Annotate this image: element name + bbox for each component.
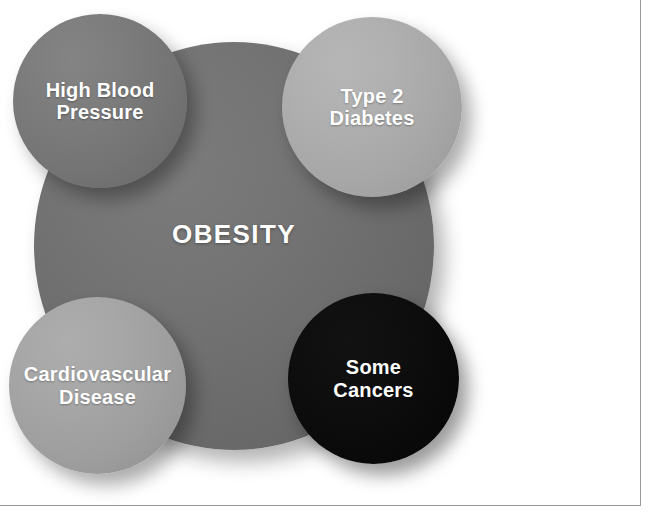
bubble-high-blood-pressure: High Blood Pressure (13, 14, 187, 188)
obesity-diagram: OBESITY High Blood Pressure Type 2 Diabe… (0, 0, 657, 512)
bubble-cardiovascular-disease: Cardiovascular Disease (9, 297, 186, 474)
bubble-some-cancers-label: Some Cancers (333, 356, 413, 401)
bubble-type-2-diabetes-label: Type 2 Diabetes (330, 85, 415, 130)
bubble-high-blood-pressure-label: High Blood Pressure (46, 79, 155, 124)
page-border-right (640, 0, 641, 506)
bubble-type-2-diabetes: Type 2 Diabetes (282, 17, 462, 197)
page-border-bottom (0, 505, 641, 506)
bubble-some-cancers: Some Cancers (288, 293, 459, 464)
bubble-obesity-label: OBESITY (172, 220, 296, 249)
bubble-cardiovascular-disease-label: Cardiovascular Disease (24, 363, 171, 408)
